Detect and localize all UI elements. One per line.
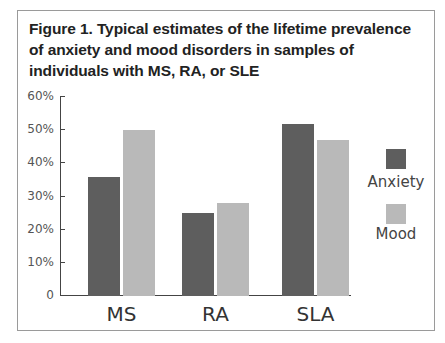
legend-label-anxiety: Anxiety [356, 173, 436, 191]
bar-ms-anxiety [88, 177, 120, 296]
y-tick [60, 229, 65, 230]
y-tick-label: 10% [14, 255, 54, 269]
bar-ra-anxiety [182, 213, 214, 296]
x-category-label: SLA [276, 302, 356, 326]
y-tick-label: 60% [14, 89, 54, 103]
bar-sla-anxiety [282, 124, 314, 296]
bar-ra-mood [217, 203, 249, 296]
y-tick-label: 0 [14, 288, 54, 302]
y-tick-label: 50% [14, 122, 54, 136]
y-tick [60, 129, 65, 130]
bar-ms-mood [123, 130, 155, 296]
x-category-label: MS [82, 302, 162, 326]
y-tick [60, 262, 65, 263]
chart-title: Figure 1. Typical estimates of the lifet… [29, 18, 429, 81]
legend-swatch-anxiety [386, 149, 406, 169]
y-tick-label: 30% [14, 189, 54, 203]
y-tick-label: 20% [14, 222, 54, 236]
x-category-label: RA [176, 302, 256, 326]
y-tick [60, 96, 65, 97]
y-tick [60, 162, 65, 163]
y-tick [60, 196, 65, 197]
legend-swatch-mood [386, 204, 406, 224]
bar-sla-mood [317, 140, 349, 296]
legend-label-mood: Mood [356, 225, 436, 243]
y-tick-label: 40% [14, 155, 54, 169]
